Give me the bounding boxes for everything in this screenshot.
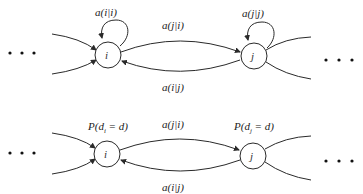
edge-out-right-upper <box>266 37 311 50</box>
edge-i-to-j <box>120 139 239 150</box>
prior-label-j: P(dj = d) <box>233 120 274 135</box>
node-label-i: i <box>104 148 107 160</box>
self-loop-label-i: a(i|i) <box>95 6 117 19</box>
top-chain: a(i|i) i a(j|i) a(i|j) a(j|j) j <box>8 6 353 94</box>
node-i: i <box>94 141 120 167</box>
prior-label-i: P(di = d) <box>87 120 128 135</box>
edge-in-left-upper <box>52 34 96 50</box>
edge-label-i-given-j: a(i|j) <box>162 81 184 94</box>
ellipsis-left <box>8 151 35 154</box>
node-i: i <box>95 42 121 68</box>
node-j: j <box>240 143 266 169</box>
edge-j-to-i <box>122 60 240 71</box>
markov-chain-diagram: a(i|i) i a(j|i) a(i|j) a(j|j) j <box>0 0 363 194</box>
edge-out-right-lower <box>266 62 311 79</box>
edge-in-left-upper <box>52 133 95 148</box>
edge-i-to-j <box>121 41 240 52</box>
ellipsis-right <box>324 58 353 61</box>
edge-label-j-given-i: a(j|i) <box>162 19 184 32</box>
bottom-chain: P(di = d) i a(j|i) a(i|j) P(dj = d) j <box>8 118 353 194</box>
ellipsis-left <box>8 51 35 54</box>
edge-j-to-i <box>121 160 240 171</box>
node-label-i: i <box>105 49 108 61</box>
edge-label-i-given-j: a(i|j) <box>162 181 184 194</box>
node-j: j <box>241 43 267 69</box>
edge-out-right-lower <box>265 162 311 180</box>
edge-in-left-lower <box>52 60 96 74</box>
ellipsis-right <box>324 159 353 162</box>
edge-in-left-lower <box>52 159 95 174</box>
edge-out-right-upper <box>265 136 311 149</box>
self-loop-label-j: a(j|j) <box>242 7 264 20</box>
edge-label-j-given-i: a(j|i) <box>162 118 184 131</box>
